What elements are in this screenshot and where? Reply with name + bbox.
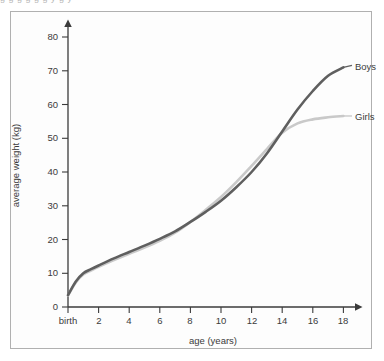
- series-label-girls: Girls: [355, 111, 375, 122]
- x-axis-ticks: [68, 307, 343, 313]
- x-tick-label-8: 8: [173, 316, 207, 326]
- y-tick-label-60: 60: [36, 100, 58, 110]
- x-axis: [68, 307, 356, 313]
- series-leader-line-boys: [343, 65, 352, 67]
- y-tick-label-40: 40: [36, 167, 58, 177]
- y-tick-label-70: 70: [36, 66, 58, 76]
- x-axis-title: age (years): [168, 335, 258, 346]
- y-axis-title: average weight (kg): [10, 121, 21, 211]
- series-label-boys: Boys: [355, 61, 376, 72]
- y-tick-label-10: 10: [36, 268, 58, 278]
- x-tick-label-birth: birth: [51, 316, 85, 326]
- y-axis-ticks: [62, 37, 68, 307]
- x-tick-label-16: 16: [296, 316, 330, 326]
- y-tick-label-0: 0: [36, 302, 58, 312]
- y-tick-label-20: 20: [36, 235, 58, 245]
- x-tick-label-18: 18: [326, 316, 360, 326]
- series-line-boys: [68, 67, 343, 295]
- y-tick-label-80: 80: [36, 32, 58, 42]
- y-tick-label-30: 30: [36, 201, 58, 211]
- x-tick-label-2: 2: [82, 316, 116, 326]
- series-line-girls: [68, 116, 343, 296]
- x-tick-label-10: 10: [204, 316, 238, 326]
- x-tick-label-14: 14: [265, 316, 299, 326]
- y-axis: [62, 26, 68, 307]
- x-tick-label-4: 4: [112, 316, 146, 326]
- y-tick-label-50: 50: [36, 133, 58, 143]
- x-tick-label-12: 12: [235, 316, 269, 326]
- x-tick-label-6: 6: [143, 316, 177, 326]
